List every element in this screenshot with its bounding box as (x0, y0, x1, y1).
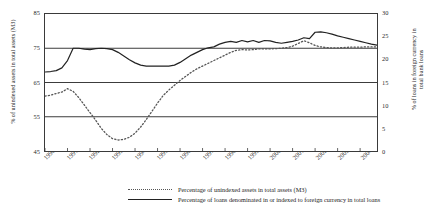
series-line-1 (45, 41, 377, 140)
y-axis-left-title: % of unindexed assets in total assets (M… (9, 7, 16, 137)
y-axis-right-tick-0: 0 (382, 148, 398, 155)
y-axis-right-tick-10: 10 (382, 102, 398, 109)
y-axis-right-tick-15: 15 (382, 79, 398, 86)
y-axis-right-tick-30: 30 (382, 9, 398, 16)
legend-key-dotted (128, 189, 172, 190)
y-axis-right-title: % of loans in foreign currency in total … (410, 4, 425, 134)
y-axis-right-title-line2: total bank loans (417, 4, 424, 134)
y-axis-right-title-line1: % of loans in foreign currency in (410, 4, 417, 134)
y-axis-left-tick-75: 75 (24, 44, 40, 51)
legend-label-unindexed-assets: Percentage of unindexed assets in total … (178, 186, 307, 193)
legend-label-foreign-currency-loans: Percentage of loans denominated in or in… (178, 196, 380, 203)
y-axis-left-tick-55: 55 (24, 113, 40, 120)
y-axis-right-tick-5: 5 (382, 125, 398, 132)
y-axis-right-tick-20: 20 (382, 55, 398, 62)
y-axis-left-tick-85: 85 (24, 9, 40, 16)
gridlines (45, 48, 377, 151)
y-axis-right-tick-25: 25 (382, 32, 398, 39)
plot-area (44, 13, 378, 152)
plot-svg (45, 14, 377, 151)
chart-figure: % of unindexed assets in total assets (M… (0, 0, 427, 215)
legend-key-solid (128, 199, 172, 200)
y-axis-left-tick-45: 45 (24, 148, 40, 155)
series-line-2 (45, 32, 377, 72)
y-axis-left-tick-65: 65 (24, 79, 40, 86)
